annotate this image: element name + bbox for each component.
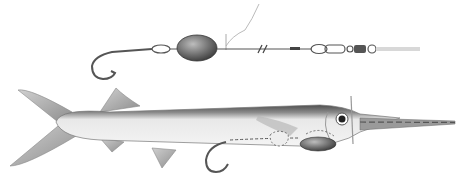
bill bbox=[360, 118, 455, 130]
dorsal-fin bbox=[100, 88, 140, 112]
tag-line bbox=[226, 4, 259, 46]
egg-sinker bbox=[177, 35, 217, 61]
ballyhoo-fish bbox=[10, 88, 455, 172]
leader-loop bbox=[152, 45, 170, 53]
egg-sinker-in-fish bbox=[300, 137, 336, 151]
belly-hook-icon bbox=[206, 142, 228, 172]
barrel-swivel bbox=[354, 45, 366, 53]
crimp bbox=[290, 47, 300, 50]
hook-icon bbox=[92, 49, 152, 79]
pelvic-fin bbox=[152, 148, 176, 168]
snap-swivel bbox=[325, 45, 345, 53]
ballyhoo-rig-illustration bbox=[0, 0, 459, 190]
rig-diagram bbox=[92, 4, 420, 79]
